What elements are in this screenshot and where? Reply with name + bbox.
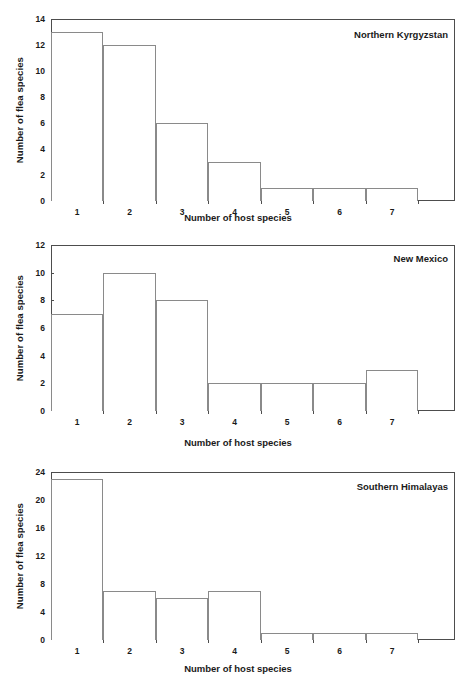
x-tick-mark: [313, 640, 314, 643]
plot-area-3: Number of flea species048121620241234567…: [0, 0, 476, 682]
bar: [208, 591, 260, 640]
x-tick-mark: [261, 640, 262, 643]
y-axis-title: Number of flea species: [8, 472, 30, 640]
bar: [366, 633, 418, 640]
y-tick-label: 24: [36, 467, 45, 477]
x-axis-title: Number of host species: [0, 663, 476, 674]
x-tick-label: 7: [390, 646, 395, 656]
x-tick-mark: [156, 640, 157, 643]
y-axis-title-text: Number of flea species: [14, 503, 25, 609]
bar: [51, 479, 103, 640]
x-tick-mark: [208, 640, 209, 643]
y-tick-label: 0: [40, 635, 45, 645]
y-tick-label: 8: [40, 579, 45, 589]
y-tick-label: 12: [36, 551, 45, 561]
y-tick-label: 20: [36, 495, 45, 505]
x-tick-label: 5: [285, 646, 290, 656]
figure-histogram-panels: Number of flea species024681012141234567…: [0, 0, 476, 682]
x-tick-label: 2: [127, 646, 132, 656]
x-tick-label: 3: [180, 646, 185, 656]
bar: [156, 598, 208, 640]
y-tick-label: 4: [40, 607, 45, 617]
x-tick-label: 4: [232, 646, 237, 656]
bar: [103, 591, 155, 640]
x-tick-label: 6: [337, 646, 342, 656]
bar: [313, 633, 365, 640]
panel-title: Southern Himalayas: [357, 481, 448, 492]
x-tick-mark: [366, 640, 367, 643]
y-tick-label: 16: [36, 523, 45, 533]
x-tick-mark: [418, 640, 419, 643]
x-tick-mark: [103, 640, 104, 643]
bar: [261, 633, 313, 640]
x-tick-label: 1: [75, 646, 80, 656]
